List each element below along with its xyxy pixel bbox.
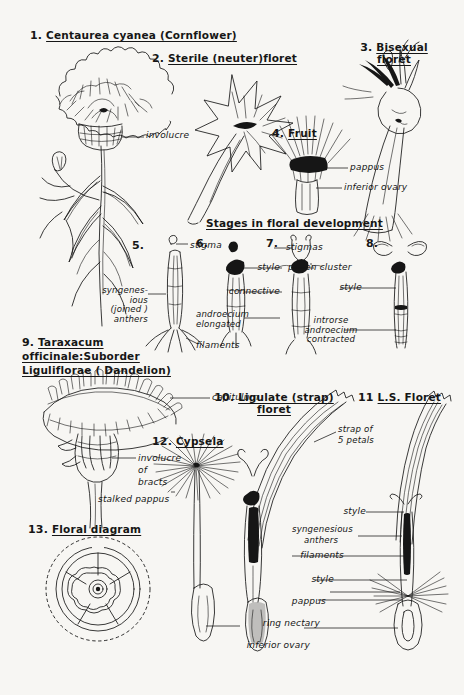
figure-1-title: Centaurea cyanea (Cornflower) [46, 29, 237, 41]
figure-5-number: 5. [132, 240, 144, 252]
annotation-syngenesious-anthers-fig11: syngenesiousanthers [292, 524, 353, 545]
annotation-pappus-fig4: pappus [350, 162, 384, 172]
figure-9-dandelion-capitulum [43, 369, 182, 528]
figure-10-number: 10. [214, 391, 234, 404]
section-heading-stages: Stages in floral development [206, 218, 383, 230]
involucre-bracts-line3: bracts [138, 477, 167, 487]
annotation-pappus-fig11: pappus [260, 596, 326, 606]
figure-13-number: 13. [28, 523, 48, 536]
figure-3-bisexual-floret [343, 40, 421, 241]
leader-lines [112, 137, 407, 628]
figure-8-number: 8. [366, 238, 378, 250]
annotation-style-fig11-top: style [318, 506, 366, 516]
annotation-inferior-ovary-fig11: inferior ovary [218, 640, 310, 650]
introrse-line1: introrse [314, 315, 349, 325]
annotation-style-fig6: style [196, 262, 280, 272]
figure-3-title: Bisexual [376, 41, 428, 53]
annotation-introrse-androecium-contracted: introrseandroeciumcontracted [296, 316, 366, 345]
syng-anthers-line1: syngenesious [292, 524, 353, 534]
botanical-plate: .k{fill:none;stroke:#161616;stroke-width… [0, 0, 464, 695]
figure-12-number: 12. [152, 435, 172, 448]
annotation-style-fig11-mid: style [272, 574, 334, 584]
figure-13-floral-diagram [46, 537, 150, 641]
figure-11-number: 11 [358, 391, 374, 404]
figure-10-ligulate-floret [238, 390, 354, 651]
figure-10-title: Ligulate (strap) [238, 391, 334, 403]
annotation-involucre: involucre [146, 130, 189, 140]
introrse-line2: androecium [304, 325, 357, 335]
annotation-involucre-of-bracts: involucreofbracts [138, 452, 181, 488]
figure-1-number: 1. [30, 29, 42, 42]
figure-4-heading: 4. Fruit [272, 128, 317, 140]
figure-3-title2: floret [377, 53, 411, 65]
figure-11-ls-floret [370, 391, 451, 650]
figure-13-heading: 13. Floral diagram [28, 524, 141, 536]
androecium-line1: androecium [196, 309, 249, 319]
annotation-strap-of-5-petals: strap of5 petals [338, 424, 374, 445]
annotation-style-fig8: style [300, 282, 362, 292]
figure-10-heading: 10. Ligulate (strap)floret [214, 392, 334, 416]
figure-2-number: 2. [152, 52, 164, 65]
figure-8-stage [374, 241, 427, 348]
figure-3-heading: 3. Bisexualfloret [348, 42, 440, 66]
figure-2-heading: 2. Sterile (neuter)floret [152, 53, 297, 65]
figure-10-title2: floret [257, 403, 291, 415]
figure-9-heading: 9. Taraxacumofficinale:SuborderLiguliflo… [22, 336, 171, 378]
strap-line1: strap of [338, 424, 373, 434]
figure-6-number: 6. [196, 238, 208, 250]
involucre-bracts-line1: involucre [138, 453, 181, 463]
strap-line2: 5 petals [338, 435, 374, 445]
annotation-inferior-ovary-fig4: inferior ovary [344, 182, 407, 192]
figure-4-number: 4. [272, 127, 284, 140]
figure-12-heading: 12. Cypsela [152, 436, 223, 448]
figure-12-title: Cypsela [176, 435, 224, 447]
section-heading-text: Stages in floral development [206, 217, 383, 229]
androecium-line2: elongated [196, 319, 241, 329]
figure-4-title: Fruit [288, 127, 317, 139]
annotation-syngenesious-anthers: syngenes-ious(joined )anthers [70, 286, 148, 325]
figure-9-title3: Liguliflorae ( Dandelion) [22, 364, 171, 376]
syngenesious-line4: anthers [114, 314, 148, 324]
syngenesious-line1: syngenes- [102, 285, 148, 295]
figure-3-number: 3. [360, 41, 372, 54]
involucre-bracts-line2: of [138, 465, 147, 475]
figure-11-title: L.S. Floret [378, 391, 441, 403]
annotation-stalked-pappus: stalked pappus [98, 494, 169, 504]
figure-11-heading: 11 L.S. Floret [358, 392, 441, 404]
syngenesious-line2: ious [130, 295, 148, 305]
figure-13-title: Floral diagram [52, 523, 141, 535]
figure-2-sterile-floret [188, 75, 293, 224]
figure-9-title2: officinale:Suborder [22, 350, 140, 362]
annotation-pollen-cluster: pollen cluster [288, 262, 352, 272]
figure-1-heading: 1. Centaurea cyanea (Cornflower) [30, 30, 237, 42]
annotation-filaments-fig11: filaments [282, 550, 344, 560]
annotation-ring-nectary: ring nectary [238, 618, 320, 628]
annotation-connective: connective [196, 286, 280, 296]
annotation-stigmas: stigmas [286, 242, 323, 252]
annotation-filaments-fig5: filaments [196, 340, 240, 350]
introrse-line3: contracted [307, 334, 355, 344]
figure-2-title: Sterile (neuter)floret [168, 52, 297, 64]
syngenesious-line3: (joined ) [111, 304, 148, 314]
annotation-androecium-elongated: androeciumelongated [196, 310, 249, 329]
figure-9-title: Taraxacum [38, 336, 103, 348]
figure-7-number: 7. [266, 238, 278, 250]
syng-anthers-line2: anthers [304, 535, 338, 546]
figure-9-number: 9. [22, 336, 34, 349]
